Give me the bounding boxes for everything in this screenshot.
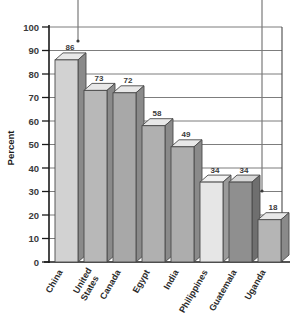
bar-canada[interactable] xyxy=(113,86,144,262)
chart-canvas: 100 90 80 70 60 50 40 30 20 10 0 Percent… xyxy=(0,0,296,332)
bar-india[interactable] xyxy=(171,140,202,262)
y-axis-title: Percent xyxy=(5,130,16,166)
bar-egypt[interactable] xyxy=(142,119,173,262)
bar-value-label-philippines: 34 xyxy=(211,166,220,175)
bar-china[interactable] xyxy=(55,53,86,262)
bar-guatemala[interactable] xyxy=(229,175,260,262)
y-tick-label: 30 xyxy=(28,186,39,197)
y-tick-label: 10 xyxy=(28,233,39,244)
x-label-guatemala: Guatemala xyxy=(207,267,239,313)
x-label-philippines: Philippines xyxy=(177,268,210,315)
bar-uganda[interactable] xyxy=(258,213,289,262)
x-label-india: India xyxy=(162,267,182,291)
bar-value-label-india: 49 xyxy=(182,130,191,139)
bar-united-states[interactable] xyxy=(84,83,115,262)
bar-chart: 100 90 80 70 60 50 40 30 20 10 0 Percent… xyxy=(0,0,296,332)
y-tick-label: 50 xyxy=(28,139,39,150)
x-label-canada: Canada xyxy=(98,267,123,301)
x-axis-labels: China United States Canada Egypt India P… xyxy=(44,266,269,315)
bar-value-label-canada: 72 xyxy=(124,76,133,85)
x-label-uganda: Uganda xyxy=(243,267,269,301)
bar-philippines[interactable] xyxy=(200,175,231,262)
bar-value-label-uganda: 18 xyxy=(269,203,278,212)
y-tick-labels: 100 90 80 70 60 50 40 30 20 10 0 xyxy=(23,22,39,268)
bar-value-label-united-states: 73 xyxy=(95,74,104,83)
y-tick-label: 80 xyxy=(28,69,39,80)
bar-value-label-egypt: 58 xyxy=(153,109,162,118)
y-tick-label: 60 xyxy=(28,116,39,127)
x-label-china: China xyxy=(44,267,66,295)
y-tick-label: 40 xyxy=(28,163,39,174)
y-tick-label: 90 xyxy=(28,45,39,56)
y-tick-label: 100 xyxy=(23,22,39,33)
bar-value-label-guatemala: 34 xyxy=(240,166,249,175)
y-tick-label: 0 xyxy=(34,257,39,268)
y-tick-marks xyxy=(42,27,49,262)
y-tick-label: 70 xyxy=(28,92,39,103)
bar-value-label-china: 86 xyxy=(66,43,75,52)
y-tick-label: 20 xyxy=(28,210,39,221)
x-label-egypt: Egypt xyxy=(131,268,152,295)
